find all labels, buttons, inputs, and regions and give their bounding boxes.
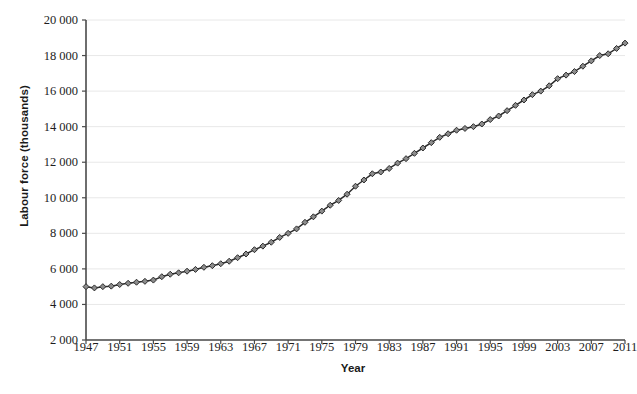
data-point-marker (167, 271, 173, 277)
data-point-marker (268, 239, 274, 245)
data-point-marker (100, 284, 106, 290)
data-point-marker (445, 131, 451, 137)
y-axis-tick-labels: 2 0004 0006 0008 00010 00012 00014 00016… (32, 0, 78, 394)
data-point-marker (201, 264, 207, 270)
data-point-marker (192, 266, 198, 272)
data-point-marker (487, 117, 493, 123)
scan-bleed-artifact (18, 379, 348, 387)
x-tick-label: 2011 (602, 340, 637, 355)
y-tick-label: 20 000 (32, 13, 78, 28)
data-line-labour-force (86, 43, 625, 288)
data-point-marker (142, 278, 148, 284)
data-point-marker (243, 251, 249, 257)
data-point-marker (83, 284, 89, 290)
data-point-marker (176, 270, 182, 276)
data-point-marker (117, 282, 123, 288)
x-axis-title: Year (86, 362, 620, 374)
plot-area (0, 0, 637, 394)
data-point-marker (260, 243, 266, 249)
data-point-marker (285, 230, 291, 236)
y-tick-label: 16 000 (32, 84, 78, 99)
data-point-marker (251, 247, 257, 253)
data-point-marker (150, 277, 156, 283)
data-point-marker (470, 124, 476, 130)
data-point-marker (226, 258, 232, 264)
data-point-marker (218, 261, 224, 267)
data-point-marker (108, 283, 114, 289)
data-point-marker (235, 255, 241, 261)
y-tick-label: 10 000 (32, 190, 78, 205)
data-point-marker (134, 279, 140, 285)
data-point-marker (563, 72, 569, 78)
y-tick-label: 6 000 (32, 261, 78, 276)
data-point-marker (479, 121, 485, 127)
data-point-marker (125, 280, 131, 286)
labour-force-line-chart: Labour force (thousands) 2 0004 0006 000… (0, 0, 637, 394)
y-tick-label: 14 000 (32, 119, 78, 134)
data-point-marker (378, 169, 384, 175)
y-tick-label: 8 000 (32, 226, 78, 241)
y-tick-label: 18 000 (32, 48, 78, 63)
data-point-marker (209, 263, 215, 269)
data-point-marker (277, 234, 283, 240)
y-tick-label: 4 000 (32, 297, 78, 312)
data-point-marker (159, 274, 165, 280)
y-tick-label: 12 000 (32, 155, 78, 170)
data-point-marker (91, 285, 97, 291)
data-point-marker (454, 127, 460, 133)
